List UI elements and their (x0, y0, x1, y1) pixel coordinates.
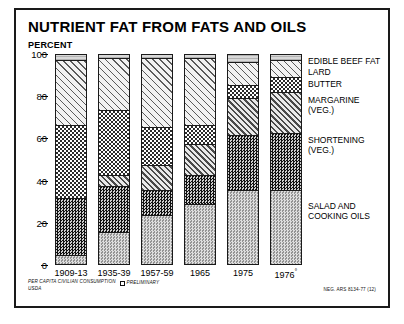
y-axis-tick-mark-40 (41, 181, 48, 182)
bar-segment-shortening (99, 187, 129, 233)
bar-segment-shortening (185, 176, 215, 205)
bar-1935-39[interactable] (98, 54, 130, 265)
x-axis-label-5: 1976° (264, 268, 308, 280)
plot-area: 0204060801001909-131935-391957-591965197… (50, 54, 302, 265)
y-axis-tick-mark-100 (41, 54, 48, 55)
legend-item-butter[interactable]: BUTTER (308, 80, 342, 90)
bar-1909-13[interactable] (55, 54, 87, 265)
legend-sublabel: (VEG.) (308, 106, 359, 116)
bar-segment-butter (142, 128, 172, 166)
legend-item-salad_and_cooking_oils[interactable]: SALAD ANDCOOKING OILS (308, 202, 370, 221)
bar-segment-lard (142, 59, 172, 128)
legend-item-margarine[interactable]: MARGARINE(VEG.) (308, 96, 359, 115)
legend-item-lard[interactable]: LARD (308, 68, 331, 78)
bar-segment-margarine (228, 99, 258, 137)
x-axis-label-4: 1975 (221, 268, 265, 278)
footer-neg-code: NEG. ARS 8134-77 (12) (324, 287, 376, 292)
bar-segment-shortening (56, 199, 86, 255)
bar-segment-margarine (271, 93, 301, 135)
bar-segment-butter (56, 126, 86, 199)
legend-label: MARGARINE (308, 95, 359, 105)
bar-segment-salad (185, 205, 215, 264)
bar-segment-shortening (142, 191, 172, 216)
bar-segment-salad (228, 191, 258, 264)
bar-segment-butter (228, 86, 258, 99)
bar-segment-salad (56, 256, 86, 264)
y-axis-tick-mark-20 (41, 223, 48, 224)
x-axis-label-2: 1957-59 (135, 268, 179, 278)
bar-1957-59[interactable] (141, 54, 173, 265)
legend-label: BUTTER (308, 79, 342, 89)
preliminary-marker-icon (120, 281, 125, 286)
bar-segment-butter (271, 78, 301, 93)
chart-title: NUTRIENT FAT FROM FATS AND OILS (28, 18, 306, 35)
bar-1975[interactable] (227, 54, 259, 265)
bar-segment-lard (56, 61, 86, 126)
legend-label: LARD (308, 67, 331, 77)
bar-1965[interactable] (184, 54, 216, 265)
bar-segment-salad (271, 191, 301, 264)
footer-preliminary-text: PRELIMINARY (127, 280, 160, 285)
legend-sublabel: COOKING OILS (308, 212, 370, 222)
bar-segment-salad (99, 233, 129, 264)
bar-segment-lard (99, 59, 129, 111)
bar-segment-margarine (185, 145, 215, 176)
bar-segment-butter (185, 126, 215, 145)
legend-label: SALAD AND (308, 201, 356, 211)
footer-source-line: PER CAPITA CIVILIAN CONSUMPTION (28, 279, 116, 284)
bar-segment-shortening (271, 134, 301, 190)
y-axis-tick-mark-80 (41, 96, 48, 97)
footer-source: PER CAPITA CIVILIAN CONSUMPTION USDA (28, 279, 116, 292)
bar-segment-lard (228, 63, 258, 86)
legend-item-shortening[interactable]: SHORTENING(VEG.) (308, 136, 365, 155)
legend-item-edible_beef_fat[interactable]: EDIBLE BEEF FAT (308, 57, 380, 67)
bar-segment-margarine (142, 166, 172, 191)
x-axis-label-0: 1909-13 (49, 268, 93, 278)
legend-label: SHORTENING (308, 135, 365, 145)
x-axis-label-1: 1935-39 (92, 268, 136, 278)
bar-segment-beeffat (228, 55, 258, 63)
bar-segment-margarine (99, 176, 129, 186)
y-axis-tick-mark-60 (41, 138, 48, 139)
footer-agency: USDA (28, 286, 41, 291)
bar-segment-lard (185, 59, 215, 126)
chart-frame: NUTRIENT FAT FROM FATS AND OILS PERCENT … (14, 8, 390, 308)
x-axis-label-3: 1965 (178, 268, 222, 278)
legend-sublabel: (VEG.) (308, 146, 365, 156)
y-axis-tick-mark-0 (41, 265, 48, 266)
footer-preliminary-note: PRELIMINARY (120, 280, 159, 285)
bar-segment-lard (271, 61, 301, 78)
legend-label: EDIBLE BEEF FAT (308, 56, 380, 66)
bar-segment-salad (142, 216, 172, 264)
bar-segment-shortening (228, 136, 258, 190)
bar-segment-butter (99, 111, 129, 176)
bar-1976[interactable] (270, 54, 302, 265)
